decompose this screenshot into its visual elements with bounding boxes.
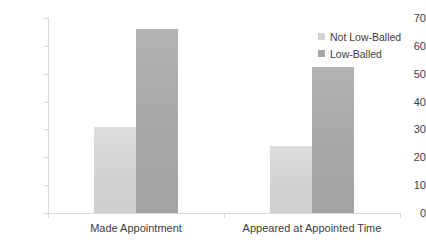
legend-swatch-icon-not-low-balled [318, 33, 325, 40]
x-axis-tick-mark [400, 213, 401, 218]
y-axis-tick-mark [44, 74, 48, 75]
y-axis-tick-label: 40 [386, 97, 426, 108]
chart-legend: Not Low-Balled Low-Balled [318, 28, 401, 62]
y-axis-line [48, 17, 49, 214]
bar [270, 146, 312, 213]
y-axis-tick-label: 30 [386, 124, 426, 135]
x-axis-tick-mark [48, 213, 49, 218]
y-axis-tick-label: 0 [386, 208, 426, 219]
bar-chart: 706050403020100 Made AppointmentAppeared… [0, 0, 426, 252]
bar [312, 67, 354, 213]
x-axis-category-label: Appeared at Appointed Time [224, 222, 400, 234]
bar [136, 29, 178, 213]
y-axis-tick-mark [44, 18, 48, 19]
y-axis-tick-label: 20 [386, 152, 426, 163]
legend-label-low-balled: Low-Balled [330, 48, 382, 60]
bar [94, 127, 136, 213]
y-axis-tick-label: 10 [386, 180, 426, 191]
legend-label-not-low-balled: Not Low-Balled [330, 31, 401, 43]
legend-item-low-balled: Low-Balled [318, 45, 401, 62]
y-axis-tick-label: 50 [386, 69, 426, 80]
y-axis-tick-mark [44, 157, 48, 158]
y-axis-tick-label: 70 [386, 13, 426, 24]
x-axis-tick-mark [224, 213, 225, 218]
legend-swatch-icon-low-balled [318, 50, 325, 57]
y-axis-tick-mark [44, 129, 48, 130]
x-axis-category-label: Made Appointment [48, 222, 224, 234]
y-axis-tick-mark [44, 102, 48, 103]
y-axis-tick-mark [44, 46, 48, 47]
legend-item-not-low-balled: Not Low-Balled [318, 28, 401, 45]
y-axis-tick-mark [44, 185, 48, 186]
